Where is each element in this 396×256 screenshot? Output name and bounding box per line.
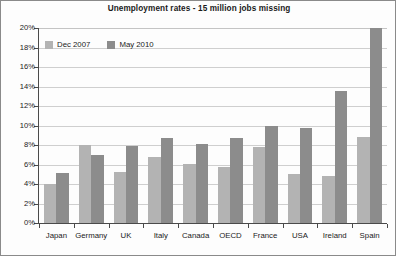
x-tick-mark [39, 224, 40, 228]
bar [196, 144, 208, 223]
bar [148, 157, 160, 223]
y-tick-label: 16% [1, 62, 35, 71]
bar [370, 28, 382, 223]
x-tick-mark [248, 224, 249, 228]
y-tick-label: 18% [1, 43, 35, 52]
bar [79, 145, 91, 223]
y-tick-label: 12% [1, 101, 35, 110]
x-tick-label-uk: UK [109, 231, 144, 240]
x-tick-mark [109, 224, 110, 228]
x-tick-mark [178, 224, 179, 228]
bar [44, 184, 56, 223]
bar [218, 167, 230, 223]
y-tick-label: 4% [1, 179, 35, 188]
plot-area [39, 28, 387, 223]
y-tick-label: 0% [1, 218, 35, 227]
y-tick-label: 2% [1, 199, 35, 208]
y-tick-label: 8% [1, 140, 35, 149]
x-tick-mark [317, 224, 318, 228]
bar [300, 128, 312, 223]
y-tick-label: 14% [1, 82, 35, 91]
bar [253, 147, 265, 223]
legend-entry[interactable]: May 2010 [107, 40, 153, 49]
bar [288, 174, 300, 223]
legend-label: May 2010 [119, 40, 153, 49]
y-tick-label: 6% [1, 160, 35, 169]
chart-container: Unemployment rates - 15 million jobs mis… [0, 0, 396, 256]
gridline [39, 87, 387, 88]
gridline [39, 223, 387, 224]
legend-swatch-icon [45, 41, 53, 49]
x-tick-mark [213, 224, 214, 228]
x-tick-label-italy: Italy [143, 231, 178, 240]
bar [183, 164, 195, 223]
gridline [39, 67, 387, 68]
gridline [39, 28, 387, 29]
bar [114, 172, 126, 223]
x-tick-label-spain: Spain [352, 231, 387, 240]
chart-legend: Dec 2007May 2010 [45, 38, 154, 51]
x-tick-mark [352, 224, 353, 228]
x-tick-mark [387, 224, 388, 228]
x-tick-label-germany: Germany [74, 231, 109, 240]
bar [161, 138, 173, 223]
y-tick-label: 10% [1, 121, 35, 130]
legend-label: Dec 2007 [57, 40, 90, 49]
x-tick-label-france: France [248, 231, 283, 240]
x-tick-label-japan: Japan [39, 231, 74, 240]
bar [265, 126, 277, 224]
x-tick-mark [143, 224, 144, 228]
bar [230, 138, 242, 223]
bar [322, 176, 334, 223]
legend-swatch-icon [107, 41, 115, 49]
bar [335, 91, 347, 223]
x-tick-label-usa: USA [283, 231, 318, 240]
x-tick-mark [74, 224, 75, 228]
x-tick-label-oecd: OECD [213, 231, 248, 240]
y-tick-label: 20% [1, 23, 35, 32]
bar [126, 146, 138, 223]
x-tick-mark [283, 224, 284, 228]
chart-title: Unemployment rates - 15 million jobs mis… [1, 4, 396, 13]
legend-entry[interactable]: Dec 2007 [45, 40, 90, 49]
x-tick-label-ireland: Ireland [317, 231, 352, 240]
bar [357, 137, 369, 223]
bar [56, 173, 68, 223]
x-tick-label-canada: Canada [178, 231, 213, 240]
bar [91, 155, 103, 223]
